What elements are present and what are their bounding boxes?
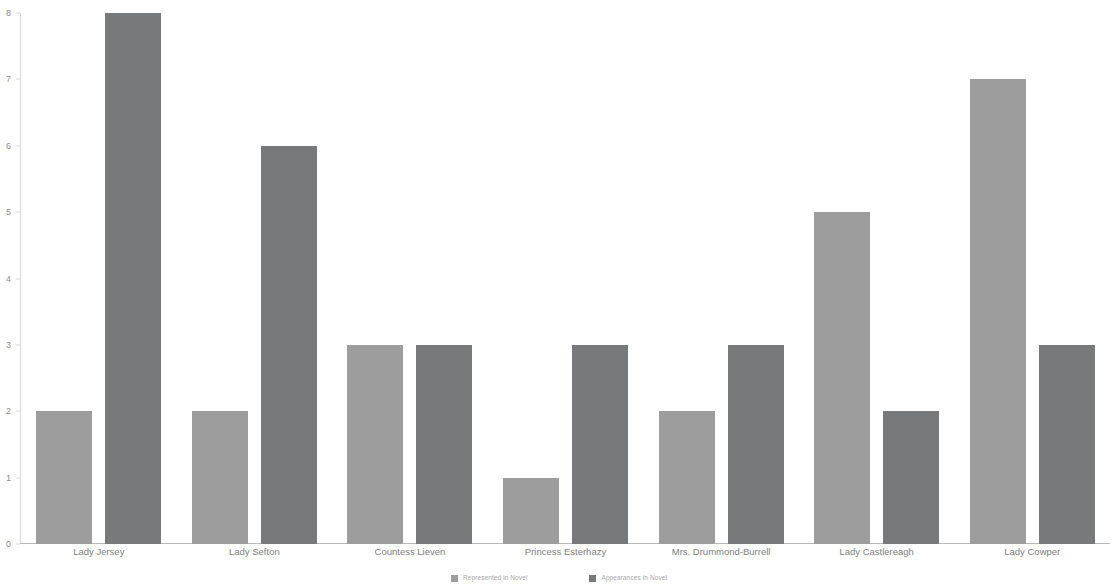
bar[interactable] <box>503 478 559 544</box>
y-axis-tick-mark <box>16 145 20 146</box>
y-axis-tick-label: 1 <box>6 473 11 483</box>
bar-chart: 012345678 Lady JerseyLady SeftonCountess… <box>0 0 1118 587</box>
y-axis-tick-mark <box>16 477 20 478</box>
bar-group <box>332 13 488 544</box>
bar[interactable] <box>970 79 1026 544</box>
y-axis-tick-label: 4 <box>6 274 11 284</box>
bar[interactable] <box>572 345 628 544</box>
x-axis-tick-label: Mrs. Drummond-Burrell <box>643 546 799 562</box>
bar[interactable] <box>261 146 317 544</box>
y-axis-tick-mark <box>16 411 20 412</box>
bar-group <box>488 13 644 544</box>
bar[interactable] <box>1039 345 1095 544</box>
y-axis-tick-label: 0 <box>6 539 11 549</box>
y-axis-tick-label: 5 <box>6 207 11 217</box>
plot-area: 012345678 <box>20 13 1110 544</box>
x-axis-tick-label: Lady Castlereagh <box>799 546 955 562</box>
bar[interactable] <box>36 411 92 544</box>
x-axis-tick-label: Princess Esterhazy <box>488 546 644 562</box>
bar[interactable] <box>814 212 870 544</box>
chart-legend: Represented in NovelAppearances in Novel <box>0 571 1118 585</box>
bar[interactable] <box>416 345 472 544</box>
bar-group <box>799 13 955 544</box>
y-axis-tick-mark <box>16 79 20 80</box>
bar-groups <box>21 13 1110 544</box>
y-axis-tick-label: 8 <box>6 8 11 18</box>
legend-swatch-icon <box>589 575 596 582</box>
y-axis-tick-label: 7 <box>6 74 11 84</box>
bar-group <box>177 13 333 544</box>
x-axis-tick-label: Lady Jersey <box>21 546 177 562</box>
x-axis-tick-label: Countess Lieven <box>332 546 488 562</box>
legend-item[interactable]: Represented in Novel <box>451 574 528 582</box>
y-axis-tick-label: 2 <box>6 406 11 416</box>
y-axis-tick-label: 3 <box>6 340 11 350</box>
y-axis-tick-mark <box>16 344 20 345</box>
y-axis-tick-mark <box>16 278 20 279</box>
bar[interactable] <box>728 345 784 544</box>
x-axis-tick-label: Lady Cowper <box>954 546 1110 562</box>
bar[interactable] <box>347 345 403 544</box>
legend-label: Appearances in Novel <box>601 574 667 582</box>
y-axis-tick-mark <box>16 212 20 213</box>
legend-swatch-icon <box>451 575 458 582</box>
bar[interactable] <box>105 13 161 544</box>
legend-label: Represented in Novel <box>463 574 528 582</box>
bar-group <box>643 13 799 544</box>
bar-group <box>954 13 1110 544</box>
x-axis-tick-label: Lady Sefton <box>177 546 333 562</box>
bar[interactable] <box>192 411 248 544</box>
legend-item[interactable]: Appearances in Novel <box>589 574 667 582</box>
bar-group <box>21 13 177 544</box>
x-axis-tick-labels: Lady JerseyLady SeftonCountess LievenPri… <box>21 546 1110 562</box>
y-axis-tick-mark <box>16 544 20 545</box>
bar[interactable] <box>659 411 715 544</box>
bar[interactable] <box>883 411 939 544</box>
y-axis-tick-label: 6 <box>6 141 11 151</box>
y-axis-tick-mark <box>16 13 20 14</box>
